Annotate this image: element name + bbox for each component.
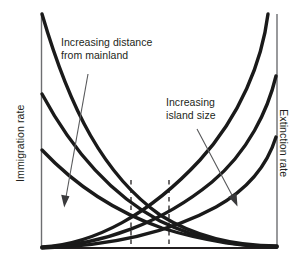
annotation-arrows bbox=[61, 74, 237, 208]
plot-canvas bbox=[0, 0, 305, 267]
left-axis-label: Immigration rate bbox=[15, 83, 26, 203]
annotation-increasing-island-size: Increasing island size bbox=[166, 96, 216, 122]
immigration-curve-intermediate bbox=[42, 94, 277, 247]
island-biogeography-figure: Immigration rate Extinction rate Increas… bbox=[0, 0, 305, 267]
right-axis-label: Extinction rate bbox=[279, 83, 290, 203]
annotation-increasing-distance: Increasing distance from mainland bbox=[61, 36, 152, 62]
distance-arrow-head bbox=[61, 195, 69, 208]
